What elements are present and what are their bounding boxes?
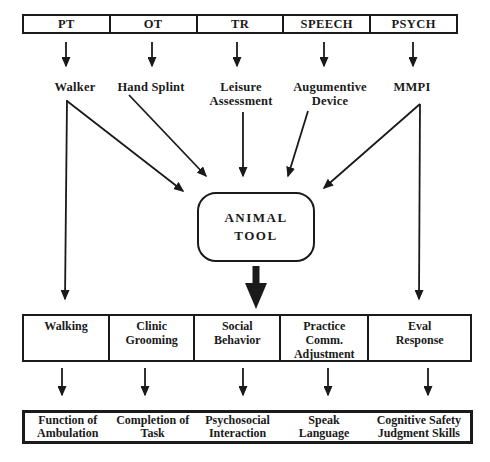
animal-tool-node: ANIMAL TOOL [197,192,315,262]
arrow-mmpi-to-animal-tool-icon [324,104,420,188]
discipline-cell-speech: SPEECH [282,16,369,32]
discipline-cell-ot: OT [109,16,196,32]
outcome-cell-speak-language: Speak Language [280,413,367,441]
outcome-cell-psychosocial-interaction: Psychosocial Interaction [195,413,280,441]
behavior-cell-social-behavior: Social Behavior [193,316,279,360]
behavior-cell-eval-response: Eval Response [367,316,470,360]
arrow-walker-to-walking-icon [65,100,67,299]
discipline-cell-psych: PSYCH [369,16,456,32]
arrow-walker-to-animal-tool-icon [67,101,183,191]
outcome-cell-completion-of-task: Completion of Task [110,413,194,441]
intervention-label-mmpi: MMPI [394,80,431,94]
intervention-label-hand-splint: Hand Splint [117,80,184,94]
behaviors-bar: Walking Clinic Grooming Social Behavior … [22,314,472,362]
intervention-label-augumentive-device: Augumentive Device [293,80,367,108]
intervention-label-walker: Walker [55,80,96,94]
outcomes-bar: Function of Ambulation Completion of Tas… [22,410,473,444]
intervention-label-leisure-assessment: Leisure Assessment [209,80,272,108]
behavior-cell-walking: Walking [24,316,108,360]
behavior-cell-clinic-grooming: Clinic Grooming [108,316,193,360]
arrow-animal-tool-to-behaviors-icon [245,266,267,309]
disciplines-bar: PT OT TR SPEECH PSYCH [22,14,458,34]
arrow-hand-splint-to-animal-tool-icon [129,95,206,176]
discipline-cell-tr: TR [196,16,283,32]
arrow-augumentive-to-animal-tool-icon [288,111,308,176]
arrow-mmpi-to-eval-response-icon [419,104,420,299]
outcome-cell-function-of-ambulation: Function of Ambulation [25,413,110,441]
flowchart-diagram: PT OT TR SPEECH PSYCH Walker Hand Splint… [0,0,490,462]
behavior-cell-practice-comm-adjustment: Practice Comm. Adjustment [279,316,367,360]
discipline-cell-pt: PT [24,16,109,32]
outcome-cell-cognitive-safety-judgment-skills: Cognitive Safety Judgment Skills [368,413,470,441]
